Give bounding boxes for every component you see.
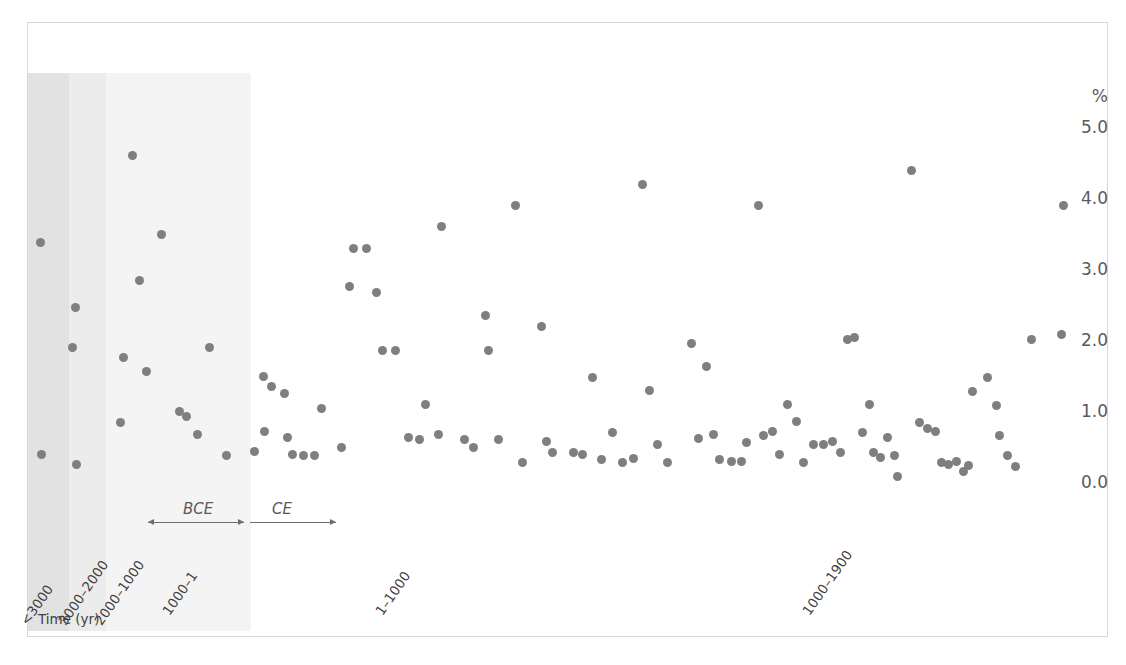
data-point — [694, 434, 703, 443]
data-point — [378, 346, 387, 355]
era-arrowhead-right-bce — [238, 519, 244, 525]
data-point — [709, 430, 718, 439]
data-point — [799, 458, 808, 467]
data-point — [638, 180, 647, 189]
data-point — [71, 303, 80, 312]
data-point — [469, 443, 478, 452]
data-point — [116, 418, 125, 427]
data-point — [737, 457, 746, 466]
data-point — [511, 201, 520, 210]
data-point — [836, 448, 845, 457]
y-tick-2.0: 2.0 — [1048, 330, 1108, 350]
data-point — [481, 311, 490, 320]
data-point — [404, 433, 413, 442]
data-point — [193, 430, 202, 439]
data-point — [809, 440, 818, 449]
data-point — [915, 418, 924, 427]
data-point — [952, 457, 961, 466]
data-point — [742, 438, 751, 447]
data-point — [222, 451, 231, 460]
era-arrow-line-ce — [250, 522, 336, 523]
data-point — [1027, 335, 1036, 344]
data-point — [964, 461, 973, 470]
data-point — [995, 431, 1004, 440]
data-point — [542, 437, 551, 446]
y-tick-3.0: 3.0 — [1048, 259, 1108, 279]
era-label-bce: BCE — [183, 500, 213, 518]
data-point — [362, 244, 371, 253]
data-point — [310, 451, 319, 460]
data-point — [288, 450, 297, 459]
data-point — [460, 435, 469, 444]
data-point — [1003, 451, 1012, 460]
era-arrowhead-left-bce — [148, 519, 154, 525]
data-point — [72, 460, 81, 469]
data-point — [618, 458, 627, 467]
data-point — [142, 367, 151, 376]
data-point — [280, 389, 289, 398]
data-point — [663, 458, 672, 467]
data-point — [828, 437, 837, 446]
data-point — [267, 382, 276, 391]
data-point — [629, 454, 638, 463]
x-axis-label: Time (yr) — [38, 611, 99, 627]
data-point — [250, 447, 259, 456]
data-point — [345, 282, 354, 291]
data-point — [983, 373, 992, 382]
era-arrowhead-right-ce — [330, 519, 336, 525]
data-point — [205, 343, 214, 352]
data-point — [157, 230, 166, 239]
data-point — [883, 433, 892, 442]
data-point — [484, 346, 493, 355]
data-point — [645, 386, 654, 395]
data-point — [421, 400, 430, 409]
y-axis-unit-label: % — [1048, 86, 1108, 106]
data-point — [128, 151, 137, 160]
data-point — [890, 451, 899, 460]
data-point — [783, 400, 792, 409]
data-point — [588, 373, 597, 382]
data-point — [349, 244, 358, 253]
data-point — [119, 353, 128, 362]
data-point — [569, 448, 578, 457]
data-point — [608, 428, 617, 437]
data-point — [858, 428, 867, 437]
data-point — [337, 443, 346, 452]
era-label-ce: CE — [272, 500, 292, 518]
data-point — [68, 343, 77, 352]
data-point — [494, 435, 503, 444]
data-point — [759, 431, 768, 440]
data-point — [727, 457, 736, 466]
data-point — [259, 372, 268, 381]
data-point — [907, 166, 916, 175]
data-point — [317, 404, 326, 413]
y-tick-1.0: 1.0 — [1048, 401, 1108, 421]
data-point — [715, 455, 724, 464]
y-tick-5.0: 5.0 — [1048, 117, 1108, 137]
data-point — [819, 440, 828, 449]
data-point — [391, 346, 400, 355]
era-arrow-line-bce — [148, 522, 244, 523]
y-tick-0.0: 0.0 — [1048, 472, 1108, 492]
data-point — [182, 412, 191, 421]
data-point — [299, 451, 308, 460]
data-point — [931, 427, 940, 436]
data-point — [850, 333, 859, 342]
data-point — [372, 288, 381, 297]
data-point — [702, 362, 711, 371]
data-point — [968, 387, 977, 396]
data-point — [37, 450, 46, 459]
scatter-plot-area — [28, 23, 1107, 636]
data-point — [434, 430, 443, 439]
data-point — [597, 455, 606, 464]
data-point — [768, 427, 777, 436]
data-point — [437, 222, 446, 231]
data-point — [687, 339, 696, 348]
data-point — [537, 322, 546, 331]
data-point — [578, 450, 587, 459]
chart-frame — [27, 22, 1108, 637]
data-point — [792, 417, 801, 426]
data-point — [893, 472, 902, 481]
data-point — [992, 401, 1001, 410]
data-point — [283, 433, 292, 442]
